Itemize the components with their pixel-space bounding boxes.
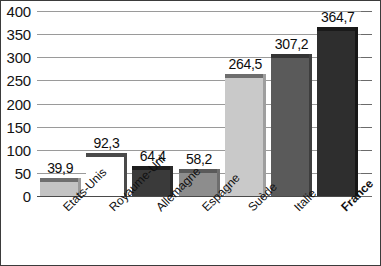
y-tick-label-400: 400 <box>0 4 31 19</box>
right-tick-350 <box>361 34 372 35</box>
bar-france <box>317 27 358 196</box>
y-tick-label-150: 150 <box>0 120 31 135</box>
right-tick-250 <box>361 80 372 81</box>
bar-side-edge <box>309 54 312 196</box>
gridline-150 <box>37 127 361 128</box>
plot-area: 39,992,364,458,2264,5307,2364,7 <box>37 11 361 196</box>
value-label-su-de: 264,5 <box>211 57 280 71</box>
gridline-350 <box>37 34 361 35</box>
y-tick-label-200: 200 <box>0 97 31 112</box>
y-tick-label-350: 350 <box>0 27 31 42</box>
right-tick-50 <box>361 173 372 174</box>
y-tick-label-250: 250 <box>0 73 31 88</box>
x-axis-category-labels: Etats-UnisRoyaume-UniAllemagneEspagneSuè… <box>37 197 361 266</box>
bar-top-cap <box>317 27 358 31</box>
y-tick-label-300: 300 <box>0 50 31 65</box>
right-tick-200 <box>361 104 372 105</box>
y-tick-label-100: 100 <box>0 143 31 158</box>
value-label-france: 364,7 <box>303 10 372 24</box>
value-label-etats-unis: 39,9 <box>26 161 95 175</box>
gridline-300 <box>37 57 361 58</box>
right-tick-300 <box>361 57 372 58</box>
right-tick-150 <box>361 127 372 128</box>
right-tick-100 <box>361 150 372 151</box>
bar-top-cap <box>225 74 266 78</box>
gridline-200 <box>37 104 361 105</box>
value-label-royaume-uni: 92,3 <box>72 136 141 150</box>
bar-chart: 39,992,364,458,2264,5307,2364,7 40035030… <box>0 0 381 266</box>
bar-top-cap <box>40 178 81 182</box>
bar-side-edge <box>355 27 358 196</box>
bar-side-edge <box>263 74 266 196</box>
value-label-italie: 307,2 <box>257 37 326 51</box>
bar-top-cap <box>271 54 312 58</box>
bar-italie <box>271 54 312 196</box>
y-tick-label-50: 50 <box>0 166 31 181</box>
value-label-espagne: 58,2 <box>165 152 234 166</box>
right-tick-400 <box>361 11 372 12</box>
y-tick-label-0: 0 <box>0 189 31 204</box>
gridline-250 <box>37 80 361 81</box>
